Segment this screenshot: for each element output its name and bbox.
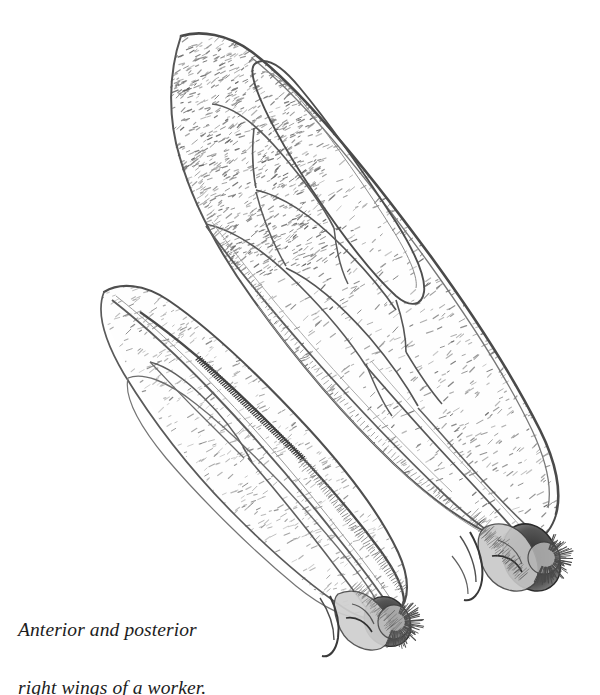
figure-caption: Anterior and posterior right wings of a … [18, 586, 318, 695]
caption-line-1: Anterior and posterior [18, 615, 318, 644]
caption-line-2: right wings of a worker. [18, 673, 318, 695]
